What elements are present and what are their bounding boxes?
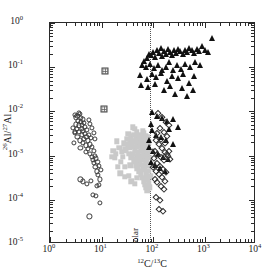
tick-mark	[249, 23, 254, 24]
tick-mark	[251, 41, 254, 42]
tick-mark	[50, 204, 53, 205]
data-point-open-diamonds	[152, 147, 158, 153]
tick-mark	[50, 156, 55, 157]
data-point-black-triangles	[161, 48, 167, 54]
data-point-black-triangles	[155, 62, 161, 68]
tick-mark	[251, 210, 254, 211]
data-point-black-triangles	[160, 154, 166, 160]
tick-mark	[50, 213, 53, 214]
data-point-open-circles	[73, 131, 78, 136]
data-point-gray-squares	[129, 179, 134, 184]
data-point-open-diamonds	[152, 167, 158, 173]
tick-mark	[50, 217, 53, 218]
data-point-open-diamonds	[155, 171, 161, 177]
tick-mark	[148, 23, 149, 26]
tick-mark	[245, 239, 246, 242]
data-point-gray-squares	[140, 175, 145, 180]
data-point-black-triangles	[167, 49, 173, 55]
data-point-open-diamonds	[154, 179, 160, 185]
data-point-gray-squares	[122, 174, 127, 179]
data-point-black-triangles	[170, 116, 176, 122]
data-point-black-triangles	[191, 50, 197, 56]
data-point-open-diamonds	[163, 169, 169, 175]
data-point-open-diamonds	[155, 206, 161, 212]
tick-mark	[240, 23, 241, 26]
data-point-open-circles	[71, 141, 76, 146]
data-point-grid-squares	[100, 105, 107, 112]
tick-mark	[205, 237, 206, 242]
data-point-open-circles	[75, 135, 80, 140]
tick-mark	[236, 23, 237, 26]
tick-mark	[126, 23, 127, 26]
data-point-open-diamonds	[154, 130, 160, 136]
data-point-open-circles	[91, 130, 96, 135]
data-point-gray-squares	[135, 149, 140, 154]
tick-mark	[90, 23, 91, 26]
tick-mark	[50, 237, 51, 242]
data-point-gray-squares	[136, 161, 141, 166]
tick-mark	[202, 23, 203, 26]
data-point-gray-squares	[131, 139, 136, 144]
data-point-black-triangles	[154, 113, 160, 119]
tick-mark	[251, 239, 252, 242]
data-point-open-circles	[84, 134, 89, 139]
data-point-gray-squares	[138, 157, 143, 162]
data-point-gray-squares	[138, 148, 143, 153]
tick-mark	[86, 239, 87, 242]
data-point-open-diamonds	[166, 156, 172, 162]
tick-mark	[50, 231, 53, 232]
tick-mark	[50, 125, 53, 126]
data-point-grid-squares	[101, 68, 108, 75]
tick-mark	[249, 111, 254, 112]
tick-mark	[251, 202, 254, 203]
data-point-gray-squares	[114, 139, 119, 144]
data-point-black-triangles	[169, 52, 175, 58]
data-point-gray-squares	[124, 136, 129, 141]
data-point-black-triangles	[166, 59, 172, 65]
data-point-gray-squares	[132, 181, 137, 186]
data-point-black-triangles	[144, 76, 150, 82]
tick-mark	[50, 30, 53, 31]
data-point-open-circles	[86, 117, 91, 122]
data-point-black-triangles	[158, 134, 164, 140]
data-point-open-diamonds	[157, 197, 163, 203]
data-point-gray-squares	[113, 151, 118, 156]
tick-mark	[97, 23, 98, 26]
tick-mark	[220, 23, 221, 26]
tick-mark	[202, 239, 203, 242]
data-point-open-circles	[79, 126, 84, 131]
tick-mark	[153, 23, 154, 28]
data-point-gray-squares	[129, 155, 134, 160]
data-point-open-circles	[76, 110, 81, 115]
tick-mark	[50, 142, 53, 143]
data-point-open-circles	[94, 194, 99, 199]
data-point-gray-squares	[139, 162, 144, 167]
data-point-black-triangles	[174, 62, 180, 68]
data-point-open-diamonds	[161, 157, 167, 163]
data-point-gray-squares	[140, 164, 145, 169]
tick-mark	[50, 25, 53, 26]
tick-mark	[251, 223, 254, 224]
data-point-gray-squares	[142, 182, 147, 187]
data-point-gray-squares	[115, 164, 120, 169]
tick-mark	[50, 135, 53, 136]
data-point-gray-squares	[132, 126, 137, 131]
data-point-black-triangles	[190, 87, 196, 93]
data-point-gray-squares	[127, 163, 132, 168]
y-tick-label-4: 10-1	[8, 61, 23, 71]
tick-mark	[50, 23, 55, 24]
x-tick-label-2: 102	[146, 245, 159, 255]
data-point-black-triangles	[152, 81, 158, 87]
data-point-black-triangles	[197, 62, 203, 68]
data-point-black-triangles	[184, 49, 190, 55]
data-point-gray-squares	[141, 149, 146, 154]
tick-mark	[236, 239, 237, 242]
data-point-black-triangles	[187, 64, 193, 70]
data-point-open-circles	[91, 192, 96, 197]
data-point-gray-squares	[143, 133, 148, 138]
tick-mark	[50, 223, 53, 224]
data-point-black-triangles	[175, 124, 181, 130]
data-point-gray-squares	[119, 149, 124, 154]
data-point-open-diamonds	[151, 155, 157, 161]
data-point-black-triangles	[184, 93, 190, 99]
